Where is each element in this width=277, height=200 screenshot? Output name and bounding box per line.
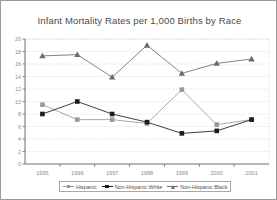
y-axis-tick-labels: 02468101214161820 (15, 36, 21, 167)
x-tick-label: 2001 (245, 170, 257, 176)
data-point-marker (214, 122, 219, 127)
x-tick-label: 2000 (210, 170, 222, 176)
y-tick-label: 0 (18, 161, 21, 167)
data-point-marker (75, 99, 80, 104)
legend-entry[interactable]: Non-Hispanic White (102, 184, 163, 190)
data-point-marker (144, 42, 150, 48)
legend-label: Non-Hispanic White (115, 184, 163, 190)
data-point-marker (180, 87, 185, 92)
x-tick-label: 1999 (176, 170, 188, 176)
y-tick-label: 2 (18, 149, 21, 155)
y-tick-label: 18 (15, 49, 21, 55)
y-tick-label: 14 (15, 74, 21, 80)
data-point-marker (248, 56, 254, 62)
data-point-marker (40, 102, 45, 107)
y-tick-label: 16 (15, 61, 21, 67)
legend-entry[interactable]: Hispanic (63, 184, 97, 190)
y-tick-label: 12 (15, 86, 21, 92)
chart-legend: HispanicNon-Hispanic WhiteNon-Hispanic B… (59, 181, 231, 192)
legend-square-icon (102, 184, 113, 190)
data-point-marker (110, 112, 115, 117)
data-point-marker (145, 120, 150, 125)
y-tick-label: 10 (15, 99, 21, 105)
x-tick-label: 1996 (71, 170, 83, 176)
chart-plot-area: 02468101214161820 1995199619971998199920… (1, 1, 277, 200)
data-point-marker (74, 51, 80, 57)
gridlines (25, 39, 269, 152)
data-point-marker (214, 129, 219, 134)
y-tick-label: 4 (18, 136, 21, 142)
x-tick-label: 1997 (106, 170, 118, 176)
legend-entry[interactable]: Non-Hispanic Black (167, 184, 227, 190)
data-point-marker (249, 117, 254, 122)
series-line (42, 102, 251, 134)
legend-label: Hispanic (76, 184, 97, 190)
legend-square-icon (63, 184, 74, 190)
data-point-marker (110, 117, 115, 122)
x-tick-label: 1998 (141, 170, 153, 176)
y-tick-label: 8 (18, 111, 21, 117)
legend-triangle-icon (167, 184, 178, 190)
data-series (39, 42, 255, 79)
x-tick-label: 1995 (36, 170, 48, 176)
data-point-marker (75, 117, 80, 122)
legend-label: Non-Hispanic Black (180, 184, 227, 190)
y-tick-label: 6 (18, 124, 21, 130)
x-axis-tick-labels: 1995199619971998199920002001 (36, 170, 258, 176)
series-line (42, 45, 251, 77)
data-point-marker (180, 131, 185, 136)
y-tick-label: 20 (15, 36, 21, 42)
series-line (42, 90, 251, 125)
chart-container: Infant Mortality Rates per 1,000 Births … (0, 0, 277, 200)
data-point-marker (40, 112, 45, 117)
axes (23, 39, 270, 167)
